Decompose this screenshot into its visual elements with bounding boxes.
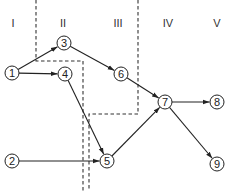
stage-label-iv: IV (163, 17, 174, 29)
stage-labels: IIIIIIIVV (11, 17, 221, 29)
stage-label-iii: III (113, 17, 122, 29)
stage-label-v: V (213, 17, 221, 29)
edge-7-9 (170, 107, 213, 158)
edge-1-3 (18, 47, 57, 70)
node-3: 3 (57, 36, 71, 50)
stage-label-i: I (11, 17, 14, 29)
node-label: 8 (214, 96, 220, 108)
dashed-cut-lines (36, 0, 138, 191)
node-label: 2 (9, 155, 15, 167)
node-label: 1 (9, 67, 15, 79)
edge-5-7 (112, 107, 160, 156)
node-7: 7 (158, 95, 172, 109)
node-label: 9 (214, 158, 220, 170)
node-4: 4 (58, 67, 72, 81)
node-label: 3 (61, 37, 67, 49)
network-diagram: IIIIIIIVV 123456789 (0, 0, 229, 191)
node-label: 5 (104, 155, 110, 167)
node-label: 6 (118, 68, 124, 80)
node-label: 4 (62, 68, 68, 80)
edges (18, 46, 212, 161)
edge-1-4 (19, 73, 58, 74)
edge-6-7 (127, 78, 159, 98)
node-9: 9 (210, 157, 224, 171)
node-8: 8 (210, 95, 224, 109)
node-6: 6 (114, 67, 128, 81)
stage-label-ii: II (60, 17, 66, 29)
edge-3-6 (70, 46, 114, 70)
nodes: 123456789 (5, 36, 224, 171)
node-label: 7 (162, 96, 168, 108)
node-2: 2 (5, 154, 19, 168)
node-1: 1 (5, 66, 19, 80)
edge-4-5 (68, 80, 104, 154)
node-5: 5 (100, 154, 114, 168)
